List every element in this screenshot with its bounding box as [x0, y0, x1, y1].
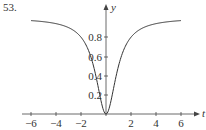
x-tick-label: −4 [50, 117, 62, 129]
x-tick-label: 2 [128, 117, 134, 129]
problem-number: 53. [3, 1, 17, 13]
x-axis-arrow-icon [194, 112, 200, 117]
x-tick-label: 4 [153, 117, 159, 129]
y-tick-label: 0.8 [88, 31, 102, 43]
x-tick-label: −2 [75, 117, 87, 129]
y-axis-arrow-icon [104, 4, 109, 10]
x-axis-label: t [202, 107, 206, 119]
x-tick-label: 6 [178, 117, 184, 129]
x-tick-label: −6 [25, 117, 37, 129]
y-axis-label: y [110, 1, 116, 13]
chart: 53. t y −6 −4 −2 2 4 6 0.2 0.4 0.6 0.8 [0, 0, 206, 130]
